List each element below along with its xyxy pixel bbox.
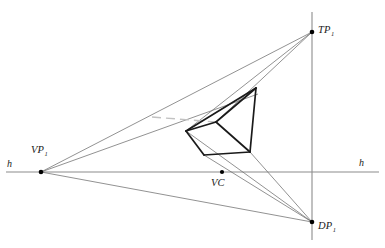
object-outline — [186, 88, 256, 155]
point-markers — [39, 30, 315, 225]
ray-dp1-to-right-vertex — [250, 152, 312, 222]
dp1-label-subscript: 1 — [333, 226, 336, 233]
ray-vp1-to-inner-vertex — [41, 94, 258, 172]
dp1-label-text: DP — [318, 220, 332, 231]
tp1-label-text: TP — [318, 24, 331, 35]
vp1-label: VP1 — [31, 144, 48, 155]
tp1-label: TP1 — [318, 24, 334, 35]
vc-label: VC — [211, 177, 225, 188]
ray-tp1-to-left-vertex — [186, 32, 312, 131]
ray-vp1-to-top-vertex — [41, 32, 312, 172]
edge-e-c — [216, 122, 250, 152]
edge-a-b — [186, 88, 256, 131]
dp1-label: DP1 — [318, 220, 336, 231]
horizon-label-left: h — [7, 158, 12, 169]
edge-b-c — [250, 88, 256, 152]
diagram-canvas — [0, 0, 385, 248]
edge-d-a — [186, 131, 204, 155]
point-marker-vc — [220, 170, 224, 174]
construction-rays-from-dp1 — [186, 131, 312, 222]
vp1-label-subscript: 1 — [45, 150, 48, 157]
edge-a-e — [186, 122, 216, 131]
ray-tp1-to-mid-vertex — [216, 32, 312, 122]
ray-dp1-to-left-vertex — [186, 131, 312, 222]
edge-c-d — [204, 152, 250, 155]
perspective-diagram: h h VP1 TP1 DP1 VC — [0, 0, 385, 248]
point-marker-vp1 — [39, 170, 44, 175]
point-marker-tp1 — [310, 30, 315, 35]
horizon-label-right: h — [359, 157, 364, 168]
point-marker-dp1 — [310, 220, 315, 225]
vp1-label-text: VP — [31, 144, 44, 155]
tp1-label-subscript: 1 — [331, 30, 334, 37]
construction-rays-from-vp1 — [41, 32, 312, 222]
construction-rays-from-tp1 — [186, 32, 312, 131]
edge-e-b — [216, 88, 256, 122]
